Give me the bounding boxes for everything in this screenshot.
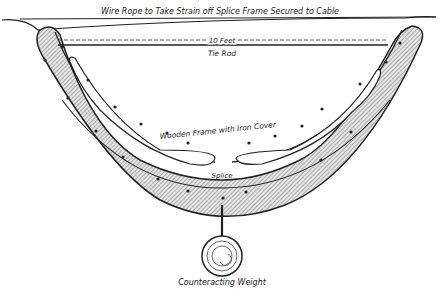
- label-frame: Wooden Frame with Iron Cover: [159, 120, 277, 141]
- label-wire-rope: Wire Rope to Take Strain off Splice Fram…: [101, 7, 339, 16]
- counteracting-weight: [202, 236, 242, 276]
- wire-rope: [2, 17, 436, 52]
- label-weight: Counteracting Weight: [178, 278, 267, 287]
- label-length: 10 Feet: [209, 37, 236, 45]
- label-tie-rod: Tie Rod: [208, 49, 236, 58]
- label-splice: Splice: [212, 172, 233, 180]
- splice-frame-diagram: Wire Rope to Take Strain off Splice Fram…: [0, 0, 441, 296]
